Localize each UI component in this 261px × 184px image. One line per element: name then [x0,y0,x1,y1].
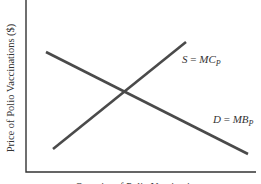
demand-label: D = MBP [212,113,254,128]
supply-curve [53,42,186,149]
axes [26,0,256,172]
supply-label: S = MCP [182,53,221,68]
x-axis-title: Quantity of Polio Vaccinations [76,181,205,184]
y-axis-title: Price of Polio Vaccinations ($) [5,23,17,152]
supply-demand-chart: S = MCP D = MBP Price of Polio Vaccinati… [0,0,261,184]
